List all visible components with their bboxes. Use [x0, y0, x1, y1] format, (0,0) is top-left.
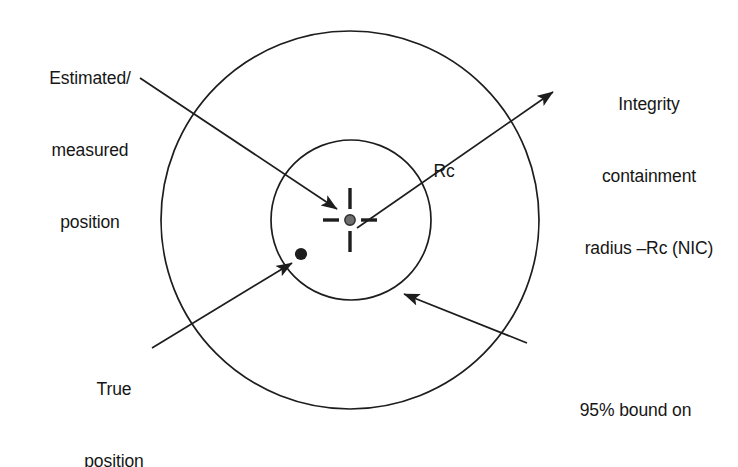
label-true-position: True position [34, 329, 194, 467]
label-rc-text: Rc [414, 159, 474, 183]
label-true-position-line2: position [34, 449, 194, 467]
label-true-position-line1: True [34, 377, 194, 401]
label-integrity-line3: radius –Rc (NIC) [560, 236, 738, 260]
estimated-position-dot [345, 215, 355, 225]
label-integrity-line2: containment [560, 164, 738, 188]
label-integrity-line1: Integrity [560, 92, 738, 116]
leader-arrow-nac-bound [404, 294, 527, 343]
estimated-position-crosshair-marker [323, 188, 377, 252]
label-estimated-position-line3: position [8, 210, 172, 234]
label-integrity-containment-radius: Integrity containment radius –Rc (NIC) [560, 44, 738, 308]
label-nac-bound: 95% bound on position accuracy (NAC) [533, 350, 738, 467]
true-position-dot [295, 248, 307, 260]
label-estimated-position-line2: measured [8, 138, 172, 162]
label-estimated-position: Estimated/ measured position [8, 18, 172, 282]
label-estimated-position-line1: Estimated/ [8, 66, 172, 90]
label-nac-line1: 95% bound on [533, 398, 738, 422]
diagram-canvas: Estimated/ measured position Integrity c… [0, 0, 738, 467]
label-rc: Rc [414, 111, 474, 231]
